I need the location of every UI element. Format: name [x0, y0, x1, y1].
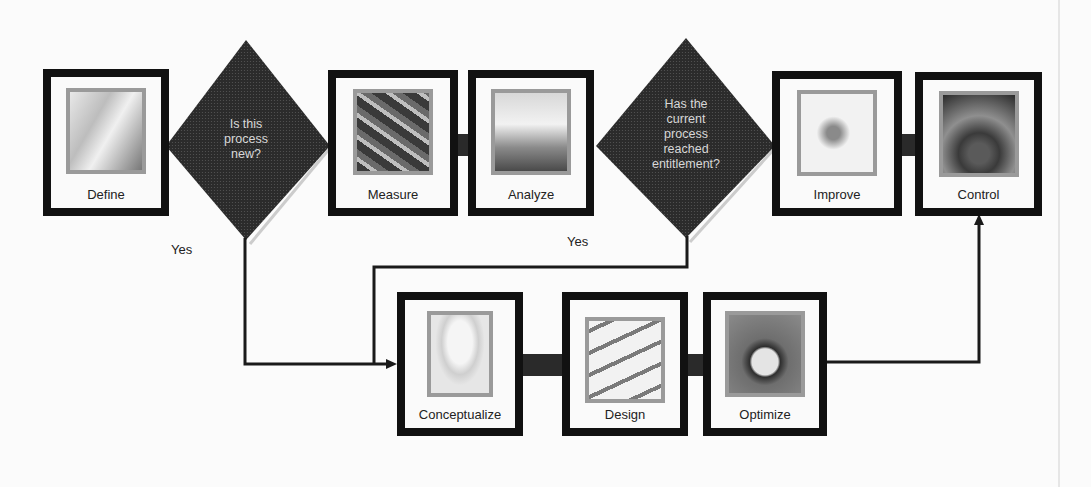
- step-label: Define: [51, 187, 161, 202]
- step-improve: Improve: [772, 71, 902, 216]
- branch-label-yes-2: Yes: [567, 234, 588, 249]
- decision-text-line: Has the: [636, 97, 736, 112]
- step-label: Control: [923, 187, 1034, 202]
- decision-reached-entitlement: Has the current process reached entitlem…: [636, 97, 736, 172]
- decision-is-process-new: Is this process new?: [206, 117, 286, 162]
- stopwatch-icon: [725, 311, 805, 397]
- connector-optimize-control: [824, 222, 979, 362]
- lightbulb-icon: [427, 311, 493, 397]
- decision-text-line: Is this: [206, 117, 286, 132]
- decision-text-line: reached: [636, 142, 736, 157]
- step-optimize: Optimize: [703, 292, 827, 436]
- decision-text-line: process: [636, 127, 736, 142]
- drafting-tools-icon: [585, 317, 665, 403]
- step-label: Improve: [780, 187, 894, 202]
- decision-text-line: current: [636, 112, 736, 127]
- lab-flask-icon: [491, 89, 571, 175]
- tools-icon: [797, 90, 877, 176]
- connector-conceptualize-design: [520, 354, 564, 376]
- step-define: Define: [43, 69, 169, 216]
- arrowhead-conceptualize: [386, 359, 397, 369]
- decision-text-line: entitlement?: [636, 157, 736, 172]
- decision-text-line: new?: [206, 147, 286, 162]
- abacus-icon: [353, 89, 433, 175]
- step-measure: Measure: [328, 70, 458, 216]
- connector-yes-new: [245, 238, 390, 364]
- branch-label-yes-1: Yes: [171, 242, 192, 257]
- step-control: Control: [915, 72, 1042, 216]
- control-panel-icon: [939, 91, 1019, 177]
- step-conceptualize: Conceptualize: [397, 292, 523, 436]
- step-label: Optimize: [711, 407, 819, 422]
- decision-text-line: process: [206, 132, 286, 147]
- step-label: Conceptualize: [405, 407, 515, 422]
- step-label: Analyze: [476, 187, 586, 202]
- step-analyze: Analyze: [468, 70, 594, 216]
- document-icon: [66, 88, 146, 174]
- flowchart-canvas: Define Measure Analyze Improve Control I…: [0, 0, 1091, 487]
- step-label: Design: [570, 407, 680, 422]
- step-label: Measure: [336, 187, 450, 202]
- step-design: Design: [562, 292, 688, 436]
